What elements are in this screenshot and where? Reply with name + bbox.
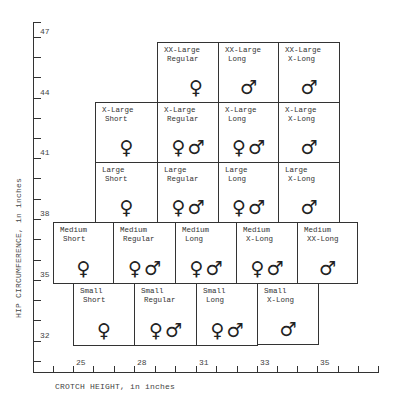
- gender-symbols: ♀♂: [158, 197, 218, 217]
- size-name: Medium: [304, 226, 331, 234]
- size-name: Large: [285, 166, 308, 174]
- y-tick: [33, 300, 41, 301]
- size-cell-label: SmallX-Long: [264, 287, 294, 305]
- size-cell-label: MediumRegular: [120, 226, 155, 244]
- x-tick: [277, 366, 278, 373]
- male-symbol-icon: ♂: [248, 137, 265, 157]
- female-symbol-icon: ♀: [251, 258, 265, 278]
- size-name: X-Large: [225, 106, 257, 114]
- male-symbol-icon: ♂: [187, 137, 204, 157]
- male-symbol-icon: ♂: [144, 258, 161, 278]
- size-cell-label: XX-LargeRegular: [164, 46, 200, 64]
- size-cell-label: SmallLong: [203, 287, 226, 305]
- size-cell-xx-large-regular: XX-LargeRegular♀: [157, 42, 219, 103]
- y-tick: [33, 219, 41, 220]
- size-cell-medium-regular: MediumRegular♀♂: [113, 222, 176, 284]
- y-tick: [33, 199, 41, 200]
- size-cell-medium-long: MediumLong♀♂: [175, 222, 237, 284]
- size-cell-medium-xx-long: MediumXX-Long♂: [297, 222, 358, 284]
- y-tick: [33, 361, 41, 362]
- x-tick: [216, 366, 217, 373]
- female-symbol-icon: ♀: [172, 137, 186, 157]
- female-symbol-icon: ♀: [189, 77, 203, 97]
- male-symbol-icon: ♂: [266, 258, 283, 278]
- x-axis-title: CROTCH HEIGHT, in inches: [55, 382, 175, 391]
- size-name: Small: [264, 287, 287, 295]
- gender-symbols: ♂: [279, 137, 339, 157]
- y-tick: [33, 239, 41, 240]
- male-symbol-icon: ♂: [226, 320, 243, 340]
- male-symbol-icon: ♂: [187, 197, 204, 217]
- x-axis-line: [33, 372, 379, 373]
- size-name: X-Large: [102, 106, 134, 114]
- y-tick-label: 47: [40, 28, 50, 36]
- length-name: Regular: [120, 235, 155, 244]
- male-symbol-icon: ♂: [205, 258, 222, 278]
- x-tick: [196, 366, 197, 373]
- size-name: XX-Large: [164, 46, 200, 54]
- size-name: XX-Large: [225, 46, 261, 54]
- x-tick: [297, 366, 298, 373]
- size-name: Small: [80, 287, 103, 295]
- x-tick-label: 28: [137, 359, 147, 367]
- y-axis-title: HIP CIRCUMFERENCE, in inches: [14, 178, 23, 318]
- y-tick-label: 44: [40, 89, 50, 97]
- gender-symbols: ♀: [74, 320, 134, 340]
- gender-symbols: ♀: [96, 197, 157, 217]
- length-name: Regular: [164, 55, 200, 64]
- length-name: X-Long: [243, 235, 273, 244]
- size-cell-label: MediumShort: [60, 226, 87, 244]
- gender-symbols: ♀: [54, 258, 113, 278]
- size-cell-label: SmallRegular: [141, 287, 176, 305]
- gender-symbols: ♀♂: [135, 320, 196, 340]
- gender-symbols: ♀♂: [219, 197, 278, 217]
- female-symbol-icon: ♀: [120, 197, 134, 217]
- length-name: Short: [80, 296, 106, 305]
- size-cell-large-long: LargeLong♀♂: [218, 162, 279, 223]
- size-cell-label: MediumXX-Long: [304, 226, 339, 244]
- x-tick-label: 35: [320, 359, 330, 367]
- y-tick: [33, 118, 41, 119]
- length-name: Long: [225, 115, 257, 124]
- male-symbol-icon: ♂: [165, 320, 182, 340]
- female-symbol-icon: ♀: [120, 137, 134, 157]
- size-cell-small-long: SmallLong♀♂: [196, 283, 258, 346]
- y-tick-label: 38: [40, 210, 50, 218]
- length-name: Regular: [164, 175, 199, 184]
- size-name: Medium: [182, 226, 209, 234]
- y-tick: [33, 138, 41, 139]
- x-tick: [175, 366, 176, 373]
- y-tick: [33, 158, 41, 159]
- length-name: X-Long: [285, 175, 315, 184]
- length-name: Short: [102, 175, 128, 184]
- y-tick-label: 32: [40, 332, 50, 340]
- x-tick: [257, 366, 258, 373]
- x-tick: [155, 366, 156, 373]
- y-tick: [33, 320, 41, 321]
- female-symbol-icon: ♀: [232, 137, 246, 157]
- gender-symbols: ♀: [158, 77, 218, 97]
- size-cell-label: X-LargeShort: [102, 106, 134, 124]
- gender-symbols: ♀♂: [114, 258, 175, 278]
- y-tick: [33, 280, 41, 281]
- gender-symbols: ♀♂: [158, 137, 218, 157]
- size-name: Large: [102, 166, 125, 174]
- gender-symbols: ♀: [96, 137, 157, 157]
- x-tick: [378, 366, 379, 373]
- gender-symbols: ♂: [279, 77, 339, 97]
- male-symbol-icon: ♂: [248, 197, 265, 217]
- female-symbol-icon: ♀: [77, 258, 91, 278]
- size-cell-label: LargeShort: [102, 166, 128, 184]
- y-tick: [33, 178, 41, 179]
- length-name: Long: [182, 235, 209, 244]
- size-cell-small-regular: SmallRegular♀♂: [134, 283, 197, 346]
- size-cell-large-x-long: LargeX-Long♂: [278, 162, 340, 223]
- male-symbol-icon: ♂: [319, 258, 336, 278]
- length-name: X-Long: [285, 115, 317, 124]
- size-cell-label: X-LargeRegular: [164, 106, 199, 124]
- length-name: Short: [60, 235, 87, 244]
- gender-symbols: ♀♂: [197, 320, 257, 340]
- size-cell-label: LargeLong: [225, 166, 248, 184]
- x-tick: [93, 366, 94, 373]
- size-name: X-Large: [164, 106, 196, 114]
